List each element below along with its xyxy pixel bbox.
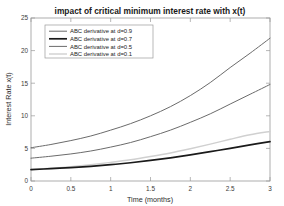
legend-label-2: ABC derivative at d=0.5 (70, 44, 133, 50)
x-tick-label: 2.5 (226, 185, 235, 192)
y-tick-label: 20 (21, 47, 29, 54)
legend-label-3: ABC derivative at d=0.1 (70, 51, 132, 57)
y-tick-label: 0 (24, 177, 28, 184)
x-tick-label: 3 (268, 185, 272, 192)
line-chart: impact of critical minimum interest rate… (0, 0, 284, 206)
y-axis-label: Interest Rate x(t) (4, 72, 13, 126)
x-tick-label: 1 (109, 185, 113, 192)
y-tick-label: 5 (24, 145, 28, 152)
y-tick-label: 10 (21, 112, 29, 119)
figure-container: impact of critical minimum interest rate… (0, 0, 284, 206)
chart-title: impact of critical minimum interest rate… (55, 6, 246, 16)
legend-label-0: ABC derivative at d=0.9 (70, 28, 132, 34)
y-tick-label: 25 (21, 14, 29, 21)
chart-legend[interactable]: ABC derivative at d=0.9ABC derivative at… (45, 25, 153, 58)
x-tick-label: 2 (189, 185, 193, 192)
x-axis-label: Time (months) (127, 195, 173, 204)
x-tick-label: 0.5 (66, 185, 75, 192)
x-tick-label: 0 (29, 185, 33, 192)
legend-label-1: ABC derivative at d=0.7 (70, 36, 132, 42)
y-tick-label: 15 (21, 80, 29, 87)
x-tick-label: 1.5 (146, 185, 155, 192)
series-line-1 (31, 142, 270, 170)
